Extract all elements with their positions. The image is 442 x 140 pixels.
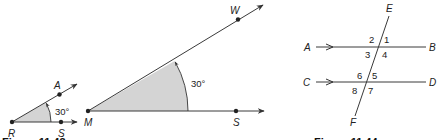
angle-ars-measure: 30°	[55, 106, 70, 117]
label-c: C	[303, 77, 311, 88]
angle-number-3: 3	[365, 49, 370, 60]
transversal-ef	[355, 16, 389, 116]
label-a-right: A	[303, 42, 311, 53]
label-m: M	[84, 117, 93, 128]
angle-number-5: 5	[372, 70, 377, 81]
parallel-lines-figure: A B C D E F 1 2 3 4 5 6 7 8	[303, 3, 436, 128]
label-f: F	[350, 117, 357, 128]
angle-wms-measure: 30°	[191, 78, 206, 89]
geometry-figures: R S A 30° M S W 30° Figure 11.43 A B C D…	[0, 0, 442, 140]
angle-wms-shading	[88, 61, 188, 111]
label-b: B	[429, 42, 436, 53]
point-r	[10, 120, 14, 124]
label-s-mid: S	[233, 117, 240, 128]
point-s-mid	[234, 109, 238, 113]
caption-figure-11-44: Figure 11.44	[314, 136, 378, 140]
caption-figure-11-43: Figure 11.43	[2, 136, 66, 140]
angle-number-4: 4	[382, 49, 387, 60]
point-m	[86, 109, 90, 113]
angle-number-8: 8	[352, 85, 357, 96]
angle-number-6: 6	[357, 70, 362, 81]
angle-ars: R S A 30°	[8, 80, 77, 139]
angle-number-7: 7	[368, 85, 373, 96]
point-s-left	[59, 120, 63, 124]
label-e: E	[386, 3, 393, 14]
angle-wms: M S W 30°	[84, 5, 264, 128]
point-w	[236, 17, 240, 21]
label-d: D	[429, 77, 436, 88]
label-a: A	[53, 80, 61, 91]
point-a	[57, 92, 61, 96]
angle-number-1: 1	[384, 34, 389, 45]
angle-number-2: 2	[369, 34, 374, 45]
label-w: W	[230, 5, 241, 16]
